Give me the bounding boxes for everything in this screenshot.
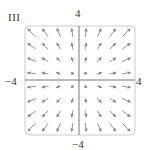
vector-arrow bbox=[85, 111, 86, 118]
vector-arrow bbox=[122, 73, 130, 74]
vector-arrow bbox=[97, 111, 101, 117]
vector-arrow bbox=[110, 111, 116, 117]
vector-arrow bbox=[85, 29, 86, 37]
vector-arrow bbox=[122, 123, 130, 131]
vector-arrow bbox=[42, 86, 49, 87]
vector-arrow bbox=[42, 73, 49, 74]
vector-arrow bbox=[72, 29, 73, 37]
vector-arrow bbox=[85, 57, 87, 62]
vector-arrow bbox=[57, 111, 61, 117]
vector-arrow bbox=[71, 72, 73, 74]
vector-arrow bbox=[57, 43, 61, 49]
vector-arrow bbox=[110, 58, 116, 62]
vector-arrow bbox=[28, 43, 36, 49]
vector-arrow bbox=[28, 58, 36, 62]
vector-arrow bbox=[122, 58, 130, 62]
vector-arrow bbox=[57, 29, 61, 37]
vector-arrow bbox=[42, 29, 48, 37]
vector-arrow bbox=[122, 43, 130, 49]
vector-arrow bbox=[97, 58, 101, 62]
vector-arrow bbox=[72, 57, 74, 62]
vector-arrow bbox=[72, 123, 73, 131]
plot-frame bbox=[25, 26, 135, 135]
vector-arrow bbox=[42, 111, 48, 117]
vector-arrow bbox=[85, 86, 87, 88]
vector-arrow bbox=[28, 123, 36, 131]
vector-arrow bbox=[42, 98, 48, 102]
vector-arrow bbox=[122, 86, 130, 87]
vector-arrow bbox=[72, 43, 73, 50]
vector-arrow bbox=[110, 43, 116, 49]
vector-field-plot bbox=[0, 0, 144, 150]
vector-arrow bbox=[42, 43, 48, 49]
vector-arrow bbox=[28, 111, 36, 117]
vector-arrow bbox=[122, 29, 130, 37]
vector-arrow bbox=[42, 123, 48, 131]
vector-arrow bbox=[110, 123, 116, 131]
vector-arrow bbox=[72, 98, 74, 103]
vector-arrow bbox=[122, 111, 130, 117]
vector-arrow bbox=[85, 123, 86, 131]
vector-arrow bbox=[85, 43, 86, 50]
vector-arrow bbox=[110, 86, 117, 87]
vector-arrow bbox=[97, 43, 101, 49]
vector-arrow bbox=[28, 73, 36, 74]
vector-arrow bbox=[98, 29, 102, 37]
vector-arrow bbox=[110, 73, 117, 74]
vector-arrow bbox=[28, 86, 36, 87]
vector-arrow bbox=[97, 73, 102, 75]
vector-arrow bbox=[110, 29, 116, 37]
vector-arrow bbox=[56, 73, 61, 75]
vector-arrow bbox=[85, 72, 87, 74]
vector-arrow bbox=[56, 86, 61, 88]
vector-arrow bbox=[71, 86, 73, 88]
vector-arrow bbox=[97, 98, 101, 102]
vector-arrow bbox=[28, 29, 36, 37]
vector-arrow bbox=[57, 98, 61, 102]
vector-arrow bbox=[72, 111, 73, 118]
vector-arrow bbox=[28, 99, 36, 103]
vector-arrow bbox=[122, 99, 130, 103]
vector-arrow bbox=[85, 98, 87, 103]
vector-arrow bbox=[110, 98, 116, 102]
vector-arrow bbox=[98, 123, 102, 131]
vector-arrow bbox=[97, 86, 102, 88]
vector-arrow bbox=[42, 58, 48, 62]
vector-arrow bbox=[57, 58, 61, 62]
vector-arrow bbox=[57, 123, 61, 131]
